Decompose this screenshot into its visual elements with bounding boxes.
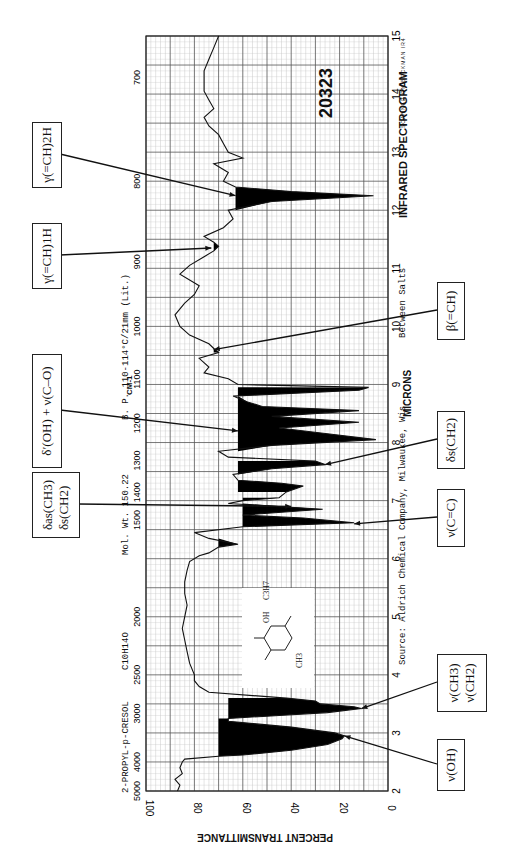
wavenumber-tick-label: 1200 xyxy=(132,413,142,433)
micron-tick-label: 3 xyxy=(391,730,402,736)
annotation-delta-oh-nu-co: δ′(OH) + ν(C–O) xyxy=(32,354,62,468)
annotation-gamma-ch-2h: γ(=CH)2H xyxy=(32,122,62,188)
wavenumber-tick-label: 1300 xyxy=(132,450,142,470)
structure-box xyxy=(242,588,314,688)
wavenumber-tick-label: 5000 xyxy=(132,781,142,801)
molecular-weight: Mol. Wt. 150.22 xyxy=(121,474,131,555)
x2-axis-label-cm: CM-1 xyxy=(125,375,134,395)
annotation-delta-s-ch2: δs(CH2) xyxy=(437,411,465,469)
wavenumber-tick-label: 900 xyxy=(132,254,142,269)
wavenumber-tick-label: 700 xyxy=(132,70,142,85)
wavenumber-tick-label: 1500 xyxy=(132,510,142,530)
micron-tick-label: 4 xyxy=(391,672,402,678)
annotation-nu-ch3-ch2: ν(CH3) ν(CH2) xyxy=(437,654,487,712)
source-label: Source: Aldrich Chemical Company, Milwau… xyxy=(398,400,408,665)
structure-oh: OH xyxy=(262,611,271,623)
percent-tick-label: 100 xyxy=(144,800,155,817)
boiling-point: B. P. 110-114°C/21mm (Lit.) xyxy=(121,274,131,420)
percent-tick-label: 0 xyxy=(386,805,397,811)
compound-name: 2-PROPYL-p-CRESOL xyxy=(121,701,131,793)
micron-tick-label: 9 xyxy=(391,381,402,387)
wavenumber-tick-label: 3000 xyxy=(132,704,142,724)
micron-tick-label: 2 xyxy=(391,788,402,794)
catalog-number: 20323 xyxy=(316,68,337,118)
annotation-nu-oh: ν(OH) xyxy=(437,739,465,791)
instrument-label: SCANNED ON BECKMAN IR4 xyxy=(400,37,406,128)
ir-spectrum-figure: 2345678910111213141550004000300025002000… xyxy=(0,0,512,849)
percent-tick-label: 20 xyxy=(338,802,349,814)
sample-method: Between Salts xyxy=(398,268,408,338)
annotation-delta-as-ch3: δas(CH3) δs(CH2) xyxy=(32,472,80,538)
wavenumber-tick-label: 4000 xyxy=(132,752,142,772)
percent-tick-label: 60 xyxy=(241,802,252,814)
wavenumber-tick-label: 2500 xyxy=(132,665,142,685)
percent-tick-label: 40 xyxy=(289,802,300,814)
structure-ch3: CH3 xyxy=(295,653,304,668)
x-axis-label-microns: MICRONS xyxy=(402,370,413,417)
molecular-formula: C10H14O xyxy=(121,632,131,670)
spectrum-plot: 2345678910111213141550004000300025002000… xyxy=(0,0,512,849)
wavenumber-tick-label: 800 xyxy=(132,174,142,189)
annotation-beta-ch: β(=CH) xyxy=(437,282,465,340)
annotation-gamma-ch-1h: γ(=CH)1H xyxy=(32,223,62,289)
y-axis-label: PERCENT TRANSMITTANCE xyxy=(145,832,385,843)
structure-c3h7: C3H7 xyxy=(262,581,271,600)
wavenumber-tick-label: 1400 xyxy=(132,482,142,502)
percent-tick-label: 80 xyxy=(192,802,203,814)
wavenumber-tick-label: 1000 xyxy=(132,316,142,336)
annotation-nu-cc: ν(C=C) xyxy=(437,489,465,547)
wavenumber-tick-label: 2000 xyxy=(132,607,142,627)
